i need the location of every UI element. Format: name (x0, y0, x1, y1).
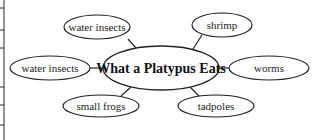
leaf-node: worms (229, 56, 309, 80)
concept-web-diagram: water insectsshrimpwater insectswormssma… (0, 0, 322, 140)
leaf-node: tadpoles (178, 95, 254, 117)
leaf-node: shrimp (192, 13, 252, 37)
leaf-node: water insects (64, 15, 130, 39)
center-node: What a Platypus Eats (96, 46, 226, 90)
connector-line (121, 87, 131, 96)
leaf-label: worms (254, 62, 284, 74)
connector-line (128, 39, 136, 48)
connector-line (190, 87, 199, 96)
center-label: What a Platypus Eats (96, 61, 226, 76)
left-margin-rule (0, 0, 4, 140)
leaf-label: water insects (21, 62, 78, 74)
leaf-node: water insects (10, 56, 90, 80)
connector-line (193, 35, 202, 49)
leaf-label: small frogs (76, 100, 125, 112)
leaf-node: small frogs (63, 95, 139, 117)
leaf-label: water insects (68, 21, 125, 33)
leaf-label: tadpoles (198, 100, 235, 112)
leaf-label: shrimp (207, 19, 238, 31)
